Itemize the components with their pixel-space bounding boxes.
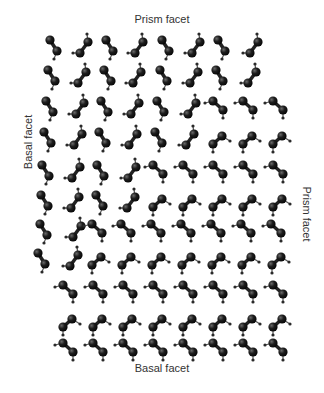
oxygen-atom — [35, 219, 44, 228]
oxygen-atom — [68, 289, 77, 298]
hydrogen-atom — [118, 206, 121, 209]
oxygen-atom — [277, 314, 286, 323]
oxygen-atom — [268, 280, 277, 289]
oxygen-atom — [45, 35, 54, 44]
water-molecule — [173, 338, 197, 361]
oxygen-atom — [46, 138, 55, 147]
oxygen-atom — [251, 67, 260, 76]
oxygen-atom — [126, 228, 135, 237]
oxygen-atom — [96, 96, 105, 105]
oxygen-atom — [217, 194, 226, 203]
oxygen-atom — [238, 160, 247, 169]
water-molecule — [171, 219, 195, 242]
oxygen-atom — [189, 129, 198, 138]
oxygen-atom — [187, 48, 196, 57]
hydrogen-atom — [101, 300, 104, 303]
oxygen-atom — [96, 252, 105, 261]
hydrogen-atom — [231, 224, 234, 227]
hydrogen-atom — [159, 118, 162, 121]
water-molecule — [203, 160, 227, 183]
water-molecule — [83, 338, 107, 361]
water-molecule — [82, 219, 106, 242]
water-molecule — [41, 96, 57, 121]
water-molecule — [111, 219, 135, 242]
hydrogen-atom — [220, 57, 223, 60]
oxygen-atom — [81, 67, 90, 76]
hydrogen-atom — [91, 333, 94, 336]
oxygen-atom — [218, 169, 227, 178]
water-molecule — [178, 194, 201, 216]
oxygen-atom — [148, 160, 157, 169]
water-molecule — [69, 62, 90, 87]
hydrogen-atom — [44, 182, 47, 185]
hydrogen-atom — [255, 32, 258, 35]
water-molecule — [211, 65, 227, 90]
oxygen-atom — [186, 252, 195, 261]
oxygen-atom — [128, 347, 137, 356]
water-molecule — [101, 35, 117, 60]
oxygen-atom — [186, 228, 195, 237]
hydrogen-atom — [180, 271, 183, 274]
hydrogen-atom — [221, 300, 224, 303]
hydrogen-atom — [241, 51, 244, 54]
oxygen-atom — [208, 139, 217, 148]
water-molecule — [143, 338, 167, 361]
water-molecule — [179, 93, 200, 118]
water-molecule — [177, 252, 200, 274]
water-molecule — [96, 96, 112, 121]
hydrogen-atom — [76, 187, 79, 190]
oxygen-atom — [128, 78, 137, 87]
oxygen-atom — [220, 46, 229, 55]
oxygen-atom — [128, 289, 137, 298]
hydrogen-atom — [85, 32, 88, 35]
oxygen-atom — [178, 322, 187, 331]
hydrogen-atom — [164, 57, 167, 60]
hydrogen-atom — [221, 116, 224, 119]
hydrogen-atom — [288, 322, 291, 325]
oxygen-atom — [208, 96, 217, 105]
hydrogen-atom — [281, 300, 284, 303]
water-molecule — [231, 219, 255, 242]
oxygen-atom — [130, 192, 139, 201]
water-molecule — [91, 190, 107, 215]
oxygen-atom — [156, 228, 165, 237]
water-molecule — [178, 314, 201, 336]
water-molecule — [99, 65, 115, 90]
oxygen-atom — [136, 67, 145, 76]
hydrogen-atom — [201, 224, 204, 227]
hydrogen-atom — [48, 118, 51, 121]
water-molecule — [45, 35, 61, 60]
hydrogen-atom — [210, 271, 213, 274]
oxygen-atom — [218, 76, 227, 85]
hydrogen-atom — [251, 180, 254, 183]
hydrogen-atom — [211, 333, 214, 336]
hydrogen-atom — [228, 322, 231, 325]
water-molecule — [233, 338, 257, 361]
hydrogen-atom — [288, 202, 291, 205]
hydrogen-atom — [271, 333, 274, 336]
oxygen-atom — [266, 219, 275, 228]
hydrogen-atom — [113, 285, 116, 288]
water-molecule — [37, 160, 53, 185]
hydrogen-atom — [71, 51, 74, 54]
oxygen-atom — [97, 228, 106, 237]
water-molecule — [263, 96, 287, 119]
oxygen-atom — [52, 46, 61, 55]
oxygen-atom — [98, 289, 107, 298]
oxygen-atom — [211, 65, 220, 74]
hydrogen-atom — [233, 165, 236, 168]
oxygen-atom — [237, 260, 246, 269]
hydrogen-atom — [113, 343, 116, 346]
oxygen-atom — [68, 232, 77, 241]
water-molecule — [53, 338, 77, 361]
water-molecule — [33, 248, 49, 273]
oxygen-atom — [124, 140, 133, 149]
oxygen-atom — [278, 347, 287, 356]
oxygen-atom — [148, 280, 157, 289]
hydrogen-atom — [288, 139, 291, 142]
hydrogen-atom — [77, 157, 80, 160]
oxygen-atom — [157, 138, 166, 147]
oxygen-atom — [87, 260, 96, 269]
oxygen-atom — [67, 173, 76, 182]
oxygen-atom — [238, 96, 247, 105]
